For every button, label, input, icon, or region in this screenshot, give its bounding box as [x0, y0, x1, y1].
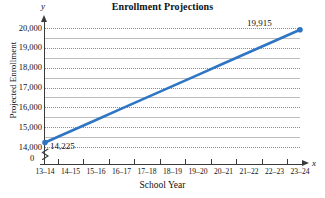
series-line: [45, 30, 300, 143]
chart-figure: Enrollment Projections y x 14,00015,0001…: [0, 0, 325, 198]
data-label-end: 19,915: [247, 18, 272, 28]
data-label-start: 14,225: [50, 141, 75, 151]
data-point-start: [42, 140, 48, 146]
data-series-layer: [0, 0, 325, 198]
data-point-end: [297, 27, 303, 33]
